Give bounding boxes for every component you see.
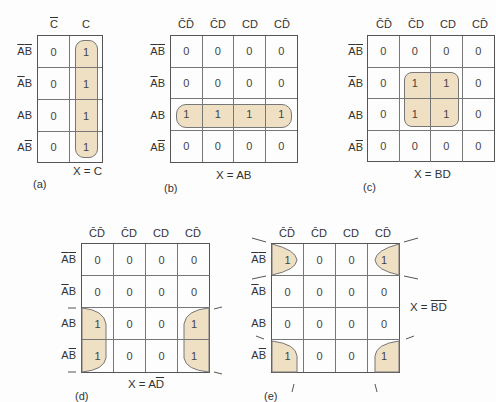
- cell: 0: [178, 244, 210, 276]
- cell: 0: [431, 131, 463, 163]
- cell: 0: [82, 244, 114, 276]
- cell: 1: [400, 99, 432, 131]
- col-header: CD: [234, 18, 266, 30]
- cell: 0: [171, 36, 203, 68]
- col-header-c-bar: C: [38, 18, 70, 30]
- row-header-a-b-bar: AB: [6, 141, 32, 153]
- row-header-a-bar-b: AB: [337, 77, 363, 89]
- cell: 0: [368, 68, 400, 100]
- row-header-a-b-bar: AB: [240, 349, 266, 361]
- cell: 0: [463, 68, 495, 100]
- cell: 0: [38, 100, 70, 132]
- cell: 0: [146, 276, 178, 308]
- equation-b: X = AB: [216, 169, 251, 181]
- cell: 1: [368, 340, 400, 372]
- row-header-ab: AB: [337, 109, 363, 121]
- cell: 0: [304, 276, 336, 308]
- cell: 0: [368, 276, 400, 308]
- col-header: CD: [145, 227, 177, 239]
- label-e: (e): [264, 390, 277, 402]
- kmap-grid-d: 0000000010011001: [81, 243, 210, 373]
- kmap-grid-e: 1001000000001001: [271, 243, 400, 373]
- cell: 1: [234, 99, 266, 131]
- col-header: C̄D̄: [368, 18, 400, 30]
- equation-e: X = BD: [410, 301, 447, 313]
- cell: 0: [304, 340, 336, 372]
- cell: 0: [203, 131, 235, 163]
- row-header-ab-bar-bar: AB: [240, 253, 266, 265]
- label-b: (b): [164, 182, 177, 194]
- cell: 0: [463, 36, 495, 68]
- cell: 1: [431, 99, 463, 131]
- cell: 0: [38, 68, 70, 100]
- kmap-grid-a: 0 1 0 1 0 1 0 1: [37, 35, 103, 163]
- col-header: C̄D: [202, 18, 234, 30]
- cell: 0: [114, 308, 146, 340]
- cell: 0: [336, 244, 368, 276]
- cell: 0: [304, 244, 336, 276]
- cell: 1: [178, 308, 210, 340]
- cell: 1: [82, 340, 114, 372]
- cell: 0: [431, 36, 463, 68]
- cell: 1: [272, 340, 304, 372]
- equation-c: X = BD: [414, 168, 451, 180]
- cell: 1: [203, 99, 235, 131]
- cell: 0: [234, 36, 266, 68]
- kmap-grid-b: 0000000011110000: [170, 35, 298, 163]
- cell: 0: [463, 131, 495, 163]
- row-header-a-b-bar: AB: [50, 349, 76, 361]
- row-header-a-bar-b: AB: [240, 285, 266, 297]
- col-header: CD̄: [464, 18, 496, 30]
- cell: 0: [336, 308, 368, 340]
- cell: 0: [82, 276, 114, 308]
- col-header: CD̄: [367, 227, 399, 239]
- row-header-ab: AB: [139, 109, 165, 121]
- col-header: C̄D: [303, 227, 335, 239]
- cell: 0: [368, 99, 400, 131]
- col-header: C̄D̄: [170, 18, 202, 30]
- kmap-grid-c: 0000011001100000: [367, 35, 495, 162]
- row-header-ab-bar-bar: AB: [139, 45, 165, 57]
- cell: 1: [178, 340, 210, 372]
- cell: 1: [70, 132, 102, 162]
- cell: 0: [266, 36, 298, 68]
- row-header-ab: AB: [50, 317, 76, 329]
- cell: 0: [368, 36, 400, 68]
- cell: 1: [400, 68, 432, 100]
- col-header: C̄D: [113, 227, 145, 239]
- col-header: CD: [335, 227, 367, 239]
- cell: 1: [368, 244, 400, 276]
- cell: 1: [70, 100, 102, 132]
- row-header-a-bar-b: AB: [139, 77, 165, 89]
- col-header-c: C: [70, 18, 102, 30]
- row-header-a-b-bar: AB: [337, 141, 363, 153]
- row-header-ab-bar-bar: AB: [337, 45, 363, 57]
- label-c: (c): [363, 181, 376, 193]
- cell: 1: [431, 68, 463, 100]
- cell: 0: [38, 36, 70, 68]
- cell: 0: [146, 244, 178, 276]
- cell: 1: [171, 99, 203, 131]
- cell: 0: [234, 68, 266, 100]
- cell: 0: [178, 276, 210, 308]
- col-header: C̄D: [400, 18, 432, 30]
- cell: 0: [114, 276, 146, 308]
- cell: 0: [171, 68, 203, 100]
- cell: 0: [266, 68, 298, 100]
- cell: 0: [368, 131, 400, 163]
- label-d: (d): [75, 390, 88, 402]
- equation-d: X = AD: [128, 378, 164, 390]
- cell: 0: [336, 340, 368, 372]
- cell: 1: [272, 244, 304, 276]
- row-header-ab-bar-bar: AB: [50, 253, 76, 265]
- cell: 0: [336, 276, 368, 308]
- cell: 1: [70, 68, 102, 100]
- cell: 1: [266, 99, 298, 131]
- cell: 0: [272, 276, 304, 308]
- cell: 0: [368, 308, 400, 340]
- cell: 0: [463, 99, 495, 131]
- equation-a: X = C: [73, 165, 102, 177]
- row-header-a-bar-b: AB: [6, 77, 32, 89]
- row-header-ab: AB: [6, 109, 32, 121]
- col-header: C̄D̄: [81, 227, 113, 239]
